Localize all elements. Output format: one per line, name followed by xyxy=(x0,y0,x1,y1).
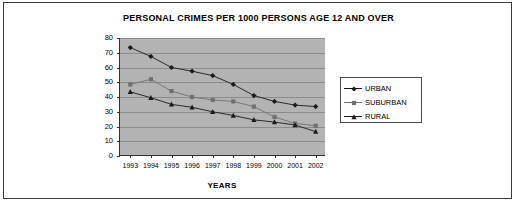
plot-area: 80706050403020100 1993199419951996199719… xyxy=(119,38,325,156)
legend-label: SUBURBAN xyxy=(362,98,407,107)
legend-marker-square-icon xyxy=(344,97,362,107)
data-point-marker xyxy=(128,45,133,50)
data-point-marker xyxy=(351,114,356,119)
series-rural xyxy=(128,89,319,134)
legend-label: RURAL xyxy=(362,112,390,121)
data-series-layer xyxy=(120,38,326,156)
legend-marker-triangle-icon xyxy=(344,111,362,121)
data-point-marker xyxy=(149,77,153,81)
data-point-marker xyxy=(251,93,256,98)
data-point-marker xyxy=(169,65,174,70)
y-tick-label: 80 xyxy=(93,34,113,41)
legend-glyph xyxy=(350,85,358,93)
legend-item-rural[interactable]: RURAL xyxy=(344,109,419,123)
legend-item-urban[interactable]: URBAN xyxy=(344,81,419,95)
legend-glyph xyxy=(350,113,358,121)
legend-item-suburban[interactable]: SUBURBAN xyxy=(344,95,419,109)
data-point-marker xyxy=(231,82,236,87)
data-point-marker xyxy=(128,89,133,94)
y-tick-label: 20 xyxy=(93,123,113,130)
data-point-marker xyxy=(352,100,356,104)
legend-glyph xyxy=(350,99,358,107)
data-point-marker xyxy=(169,89,173,93)
legend-label: URBAN xyxy=(362,84,391,93)
data-point-marker xyxy=(190,95,194,99)
series-line xyxy=(130,79,315,125)
data-point-marker xyxy=(293,103,298,108)
data-point-marker xyxy=(210,73,215,78)
legend-marker-diamond-icon xyxy=(344,83,362,93)
data-point-marker xyxy=(351,86,356,91)
data-point-marker xyxy=(231,99,235,103)
y-tick-label: 0 xyxy=(93,152,113,159)
y-tick-label: 30 xyxy=(93,108,113,115)
chart-frame: PERSONAL CRIMES PER 1000 PERSONS AGE 12 … xyxy=(3,2,512,199)
data-point-marker xyxy=(314,124,318,128)
series-suburban xyxy=(128,77,318,128)
data-point-marker xyxy=(211,98,215,102)
data-point-marker xyxy=(148,54,153,59)
series-line xyxy=(130,92,315,132)
chart-legend: URBANSUBURBANRURAL xyxy=(340,77,422,123)
data-point-marker xyxy=(272,115,276,119)
data-point-marker xyxy=(252,104,256,108)
y-tick-label: 10 xyxy=(93,137,113,144)
data-point-marker xyxy=(272,99,277,104)
series-line xyxy=(130,48,315,107)
y-tick-label: 60 xyxy=(93,64,113,71)
x-axis-title: YEARS xyxy=(119,181,325,190)
chart-title: PERSONAL CRIMES PER 1000 PERSONS AGE 12 … xyxy=(4,13,513,23)
x-tick-label: 2002 xyxy=(303,162,329,170)
data-point-marker xyxy=(190,69,195,74)
y-tick-label: 50 xyxy=(93,78,113,85)
y-tick-label: 40 xyxy=(93,93,113,100)
data-point-marker xyxy=(313,104,318,109)
y-tick-mark xyxy=(117,156,120,157)
y-tick-label: 70 xyxy=(93,49,113,56)
data-point-marker xyxy=(128,82,132,86)
